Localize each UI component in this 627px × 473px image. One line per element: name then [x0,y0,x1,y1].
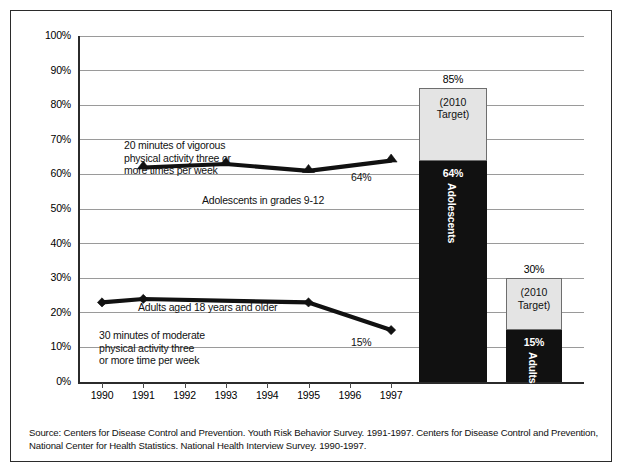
chart-figure: 0%10%20%30%40%50%60%70%80%90%100% 199019… [10,10,612,462]
y-tick-100: 100% [25,30,71,41]
bar-total-label-adults: 30% [506,263,562,275]
data-point-1-1990 [97,298,106,307]
x-tick-1996: 1996 [328,390,372,401]
bar-rotated-label-adults: Adults [527,352,539,383]
x-tick-1994: 1994 [245,390,289,401]
x-tick-1995: 1995 [287,390,331,401]
x-tick-1997: 1997 [369,390,413,401]
y-tick-30: 30% [25,272,71,283]
bar-total-label-adolescents: 85% [419,73,487,85]
y-tick-90: 90% [25,65,71,76]
x-tick-mark-1996 [350,383,351,388]
annotation-moderate-activity: 30 minutes of moderate physical activity… [99,329,205,367]
y-tick-70: 70% [25,134,71,145]
x-tick-mark-1992 [185,383,186,388]
series-label-adolescents: Adolescents in grades 9-12 [202,194,324,206]
bar-target-text-adults: (2010 Target) [506,286,562,311]
y-tick-40: 40% [25,238,71,249]
x-tick-1992: 1992 [163,390,207,401]
y-tick-10: 10% [25,341,71,352]
y-tick-80: 80% [25,99,71,110]
value-label-adults-1997: 15% [351,336,371,348]
x-tick-mark-1997 [391,383,392,388]
bar-adolescents: 85%(2010 Target)64%Adolescents [419,36,487,382]
annotation-vigorous-activity: 20 minutes of vigorous physical activity… [124,139,231,177]
y-tick-50: 50% [25,203,71,214]
x-tick-mark-1994 [267,383,268,388]
bar-current-label-adolescents: 64% [419,167,487,179]
value-label-adolescents-1997: 64% [351,171,371,183]
x-tick-1993: 1993 [204,390,248,401]
source-note: Source: Centers for Disease Control and … [29,426,599,452]
bar-current-label-adults: 15% [506,336,562,348]
x-tick-mark-1991 [143,383,144,388]
bar-target-text-adolescents: (2010 Target) [419,96,487,121]
y-tick-60: 60% [25,168,71,179]
x-tick-1990: 1990 [80,390,124,401]
bar-rotated-label-adolescents: Adolescents [446,183,458,243]
y-tick-0: 0% [25,376,71,387]
y-tick-20: 20% [25,307,71,318]
bar-adults: 30%(2010 Target)15%Adults [506,36,562,382]
x-tick-mark-1990 [102,383,103,388]
series-label-adults: Adults aged 18 years and older [138,301,277,313]
x-tick-mark-1995 [309,383,310,388]
x-tick-mark-1993 [226,383,227,388]
data-point-0-1997 [385,154,397,162]
gridline-0 [78,382,584,384]
x-tick-1991: 1991 [121,390,165,401]
